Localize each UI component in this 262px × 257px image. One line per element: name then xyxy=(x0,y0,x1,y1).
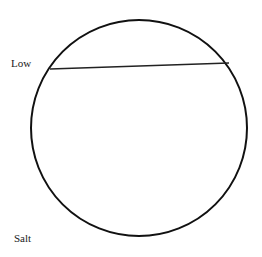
label-low: Low xyxy=(11,58,31,69)
circle-outline xyxy=(31,20,247,236)
circle-diagram xyxy=(0,0,262,257)
label-salt: Salt xyxy=(14,233,31,244)
chord-line xyxy=(50,63,229,69)
